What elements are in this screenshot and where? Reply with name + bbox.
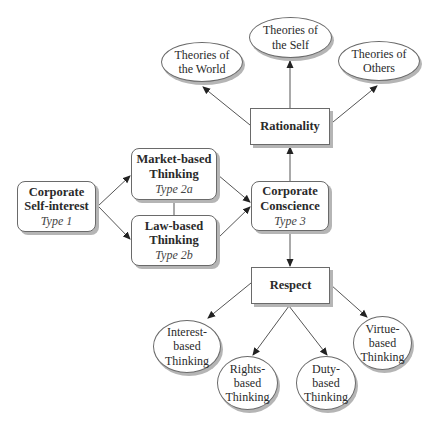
- type1-type-label: Type 1: [41, 214, 72, 228]
- interest-line2: based: [173, 339, 200, 353]
- arrow-market-to-conscience: [218, 175, 250, 202]
- theories-self-line2: the Self: [272, 38, 309, 52]
- diagram-canvas: Theories of the World Theories of the Se…: [0, 0, 440, 430]
- node-rationality: Rationality: [250, 108, 330, 145]
- node-duty-based-thinking: Duty- based Thinking: [296, 356, 356, 410]
- theories-others-line2: Others: [363, 61, 395, 75]
- arrow-respect-to-duty: [289, 306, 327, 355]
- node-interest-based-thinking: Interest- based Thinking: [153, 320, 221, 373]
- rationality-label: Rationality: [260, 119, 320, 134]
- type1-title-line1: Corporate: [29, 185, 85, 200]
- arrow-law-to-conscience: [218, 207, 250, 238]
- arrow-selfinterest-to-market: [98, 176, 130, 206]
- arrow-selfinterest-to-law: [98, 206, 130, 239]
- node-rights-based-thinking: Rights- based Thinking: [217, 356, 278, 410]
- type3-type-label: Type 3: [274, 214, 305, 228]
- virtue-line2: based: [369, 336, 396, 350]
- node-corporate-conscience: Corporate Conscience Type 3: [251, 181, 329, 231]
- type1-title-line2: Self-interest: [24, 199, 88, 214]
- rights-line2: based: [234, 376, 261, 390]
- type2b-type-label: Type 2b: [155, 248, 192, 262]
- type3-title-line1: Corporate: [262, 184, 318, 199]
- rights-line1: Rights-: [230, 362, 265, 376]
- arrow-respect-to-interest: [208, 283, 251, 318]
- virtue-line3: Thinking: [361, 350, 405, 364]
- type3-title-line2: Conscience: [260, 199, 320, 214]
- arrow-respect-to-rights: [253, 306, 289, 355]
- node-respect: Respect: [251, 267, 330, 304]
- duty-line1: Duty-: [312, 362, 340, 376]
- theories-world-line1: Theories of: [175, 48, 230, 62]
- interest-line3: Thinking: [165, 354, 209, 368]
- node-theories-world: Theories of the World: [161, 42, 243, 82]
- node-virtue-based-thinking: Virtue- based Thinking: [353, 316, 412, 370]
- type2a-type-label: Type 2a: [155, 182, 192, 196]
- theories-others-line1: Theories of: [352, 47, 407, 61]
- type2a-title-line1: Market-based: [137, 152, 212, 167]
- theories-world-line2: the World: [178, 62, 225, 76]
- arrow-rationality-to-world: [203, 87, 250, 125]
- rights-line3: Thinking: [226, 390, 270, 404]
- node-theories-self: Theories of the Self: [249, 17, 332, 58]
- type2b-title-line1: Law-based: [145, 219, 203, 234]
- node-theories-others: Theories of Others: [338, 41, 420, 81]
- virtue-line1: Virtue-: [366, 322, 400, 336]
- duty-line2: based: [312, 376, 339, 390]
- arrow-rationality-to-others: [333, 86, 377, 122]
- theories-self-line1: Theories of: [263, 23, 318, 37]
- node-corporate-self-interest: Corporate Self-interest Type 1: [17, 181, 96, 232]
- type2a-title-line2: Thinking: [149, 167, 198, 182]
- type2b-title-line2: Thinking: [149, 233, 198, 248]
- duty-line3: Thinking: [304, 390, 348, 404]
- node-law-based-thinking: Law-based Thinking Type 2b: [131, 215, 217, 266]
- respect-label: Respect: [270, 278, 312, 293]
- node-market-based-thinking: Market-based Thinking Type 2a: [131, 148, 217, 200]
- interest-line1: Interest-: [167, 325, 207, 339]
- arrow-respect-to-virtue: [331, 285, 367, 317]
